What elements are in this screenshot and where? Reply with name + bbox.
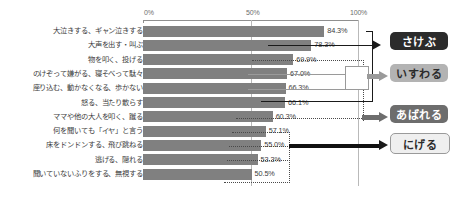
bar-category-label: のけぞって嫌がる、寝そべって駄々 [33,67,143,81]
group-box-sakebu[interactable]: さけぶ [390,32,448,50]
table-row: 怒る、当たり散らす 66.1% [0,96,454,110]
bar [143,169,252,180]
connector-sakebu-stem [268,45,372,46]
bar-value-label: 66.1% [288,96,308,110]
arrow-abareru-icon [379,112,388,122]
connector-row6-dotted [236,118,364,119]
group-box-nigeru[interactable]: にげる [390,133,450,154]
table-row: 大泣きする、ギャン泣きする 84.3% [0,24,454,38]
bar-category-label: 聞いていないふりをする、無視する [33,167,143,181]
connector-row9-dotted [227,160,290,161]
connector-nigeru-vert [289,132,290,183]
bar-category-label: 逃げる、隠れる [95,153,143,167]
connector-row2-dotted [252,60,364,61]
bar-value-label: 84.3% [327,24,347,38]
connector-row3-line [248,74,347,75]
group-box-isuwaru-label: いすわる [396,65,442,81]
arrow-isuwaru-icon [379,71,388,81]
bar [143,97,285,108]
bar-value-label: 50.5% [255,167,275,181]
table-row: 聞いていないふりをする、無視する 50.5% [0,167,454,181]
table-row: 何を聞いても「イヤ」と言う 57.1% [0,124,454,138]
table-row: 大声を出す・叫ぶ 78.3% [0,38,454,52]
bar-category-label: ママや他の大人を叩く、蹴る [53,110,143,124]
bar-category-label: 怒る、当たり散らす [81,96,143,110]
group-box-isuwaru[interactable]: いすわる [390,64,448,82]
bar-category-label: 床をドンドンする、飛び跳ねる [46,138,143,152]
connector-row8-dotted [229,146,290,147]
axis-tick-label-100: 100% [350,9,367,16]
table-row: 物を叩く、投げる 69.9% [0,53,454,67]
group-box-abareru-label: あばれる [396,106,442,122]
bar [143,26,324,37]
connector-isuwaru-box [345,66,369,90]
connector-nigeru-bar [289,144,380,148]
arrow-sakebu-icon [372,40,381,50]
bar-category-label: 何を聞いても「イヤ」と言う [53,124,143,138]
bar-category-label: 大泣きする、ギャン泣きする [53,24,143,38]
axis-tick-label-50: 50% [246,9,259,16]
group-box-abareru[interactable]: あばれる [390,105,448,123]
bar-category-label: 物を叩く、投げる [88,53,143,67]
connector-row7-dotted [232,132,290,133]
group-box-sakebu-label: さけぶ [402,33,437,49]
arrow-nigeru-icon [379,140,388,150]
bar-category-label: 座り込む、動かなくなる、歩かない [33,81,143,95]
connector-row4-line [248,89,347,90]
connector-row5-line [261,101,372,102]
group-box-nigeru-label: にげる [403,136,438,152]
table-row: 座り込む、動かなくなる、歩かない 66.3% [0,81,454,95]
bar-chart: 0% 50% 100% 大泣きする、ギャン泣きする 84.3% 大声を出す・叫ぶ… [0,0,454,198]
axis-tick-0 [143,20,144,23]
connector-row10-dotted [224,182,290,183]
bar-category-label: 大声を出す・叫ぶ [88,38,143,52]
connector-abareru-stem [362,115,380,120]
axis-tick-label-0: 0% [144,9,154,16]
